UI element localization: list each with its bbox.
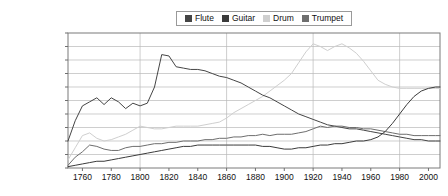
series-line-drum [68, 44, 440, 160]
ngram-chart: FluteGuitarDrumTrumpet 0.00100%0.00090%0… [0, 0, 448, 196]
plot-area [0, 0, 448, 196]
series-line-flute [68, 55, 440, 141]
